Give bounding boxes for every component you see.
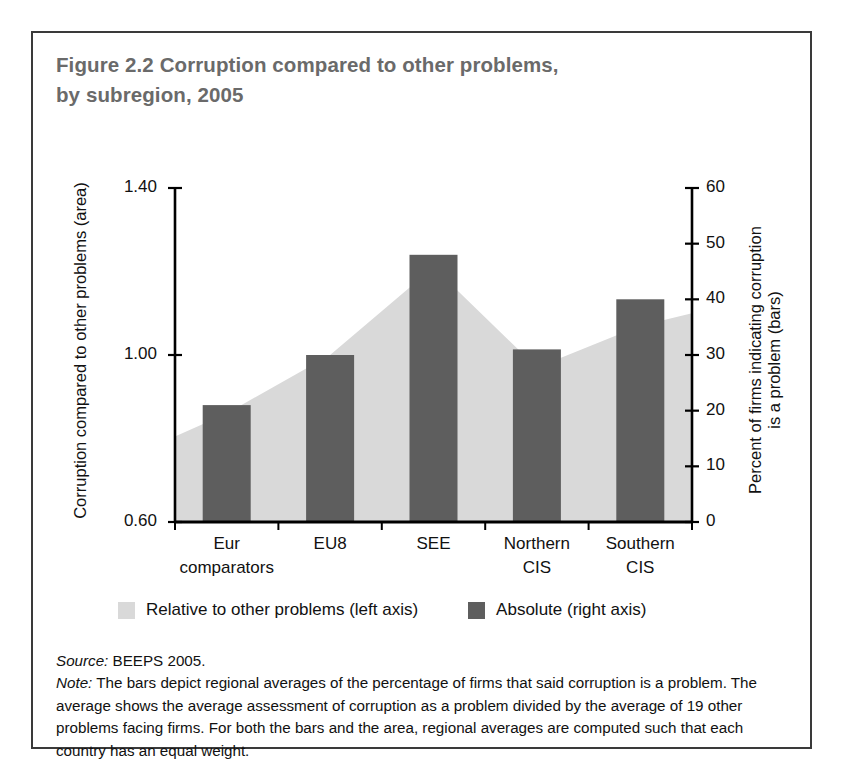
- right-tick-label: 50: [706, 233, 746, 253]
- right-tick-label: 30: [706, 344, 746, 364]
- legend-swatch-area-icon: [118, 602, 135, 619]
- chart-legend: Relative to other problems (left axis) A…: [118, 600, 758, 620]
- figure-notes: Source: BEEPS 2005. Note: The bars depic…: [56, 650, 774, 762]
- note-label: Note:: [56, 674, 92, 691]
- note-value: The bars depict regional averages of the…: [56, 674, 757, 758]
- bar-eu8[interactable]: [306, 355, 354, 522]
- legend-label-area: Relative to other problems (left axis): [146, 600, 418, 620]
- right-axis-title-line-2: is a problem (bars): [765, 170, 784, 550]
- x-axis-label-line: Southern: [569, 532, 712, 556]
- figure-source: Source: BEEPS 2005.: [56, 650, 774, 672]
- right-tick-label: 0: [706, 511, 746, 531]
- legend-item-bar[interactable]: Absolute (right axis): [468, 600, 646, 620]
- left-axis-title: Corruption compared to other problems (a…: [71, 161, 90, 541]
- legend-label-bar: Absolute (right axis): [496, 600, 646, 620]
- source-label: Source:: [56, 652, 108, 669]
- left-tick-label: 1.40: [97, 177, 157, 197]
- source-value: BEEPS 2005.: [108, 652, 205, 669]
- right-tick-label: 40: [706, 288, 746, 308]
- bar-see[interactable]: [410, 255, 458, 522]
- right-axis-title: Percent of firms indicating corruption i…: [746, 170, 784, 550]
- bar-northern-cis[interactable]: [513, 349, 561, 522]
- x-axis-label-line: comparators: [155, 556, 298, 580]
- bar-southern-cis[interactable]: [616, 299, 664, 522]
- x-axis-label-line: CIS: [569, 556, 712, 580]
- right-tick-label: 20: [706, 400, 746, 420]
- bar-eur-comparators[interactable]: [203, 405, 251, 522]
- right-tick-label: 10: [706, 455, 746, 475]
- left-tick-label: 1.00: [97, 344, 157, 364]
- right-tick-label: 60: [706, 177, 746, 197]
- right-axis-title-line-1: Percent of firms indicating corruption: [746, 170, 765, 550]
- legend-item-area[interactable]: Relative to other problems (left axis): [118, 600, 418, 620]
- left-tick-label: 0.60: [97, 511, 157, 531]
- legend-swatch-bar-icon: [468, 602, 485, 619]
- figure-note: Note: The bars depict regional averages …: [56, 672, 774, 762]
- x-axis-label-southern-cis: SouthernCIS: [569, 532, 712, 580]
